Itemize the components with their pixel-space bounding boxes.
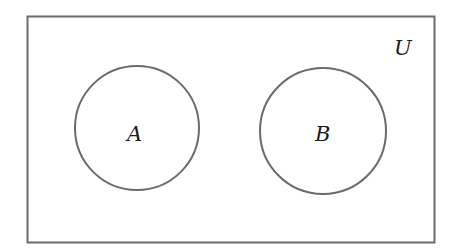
universe-label: U [394, 36, 413, 60]
set-b-label: B [314, 122, 330, 146]
set-a-label: A [125, 122, 142, 146]
venn-diagram: U A B [0, 0, 453, 252]
universe-rect [28, 17, 435, 243]
